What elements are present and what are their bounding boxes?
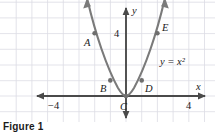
point-label-E: E	[161, 22, 169, 33]
point-C	[124, 94, 129, 99]
point-E	[155, 31, 160, 36]
point-B	[108, 78, 113, 83]
x-axis-arrow-left	[36, 93, 44, 100]
graph-plot-area: A B C D E y x −4 4 4 y = x²	[0, 0, 215, 122]
x-tick-label-4: 4	[186, 100, 192, 111]
point-label-C: C	[120, 101, 128, 112]
point-label-B: B	[100, 83, 107, 94]
figure-caption: Figure 1	[3, 121, 44, 132]
y-axis-arrow-up	[123, 7, 130, 15]
point-A	[92, 31, 97, 36]
y-axis-label: y	[131, 5, 137, 16]
figure-container: A B C D E y x −4 4 4 y = x² Figure 1	[0, 0, 215, 139]
coordinate-graph: A B C D E y x −4 4 4 y = x²	[0, 0, 215, 122]
curve-equation-label: y = x²	[159, 56, 186, 67]
point-label-A: A	[83, 37, 91, 48]
point-label-D: D	[144, 83, 153, 94]
y-tick-label-4: 4	[114, 28, 120, 39]
y-axis-arrow-down	[123, 111, 130, 119]
curve-equation-text: y = x²	[159, 56, 186, 67]
point-D	[139, 78, 144, 83]
x-axis-label: x	[195, 81, 201, 92]
x-tick-label-negative-4: −4	[48, 100, 60, 111]
